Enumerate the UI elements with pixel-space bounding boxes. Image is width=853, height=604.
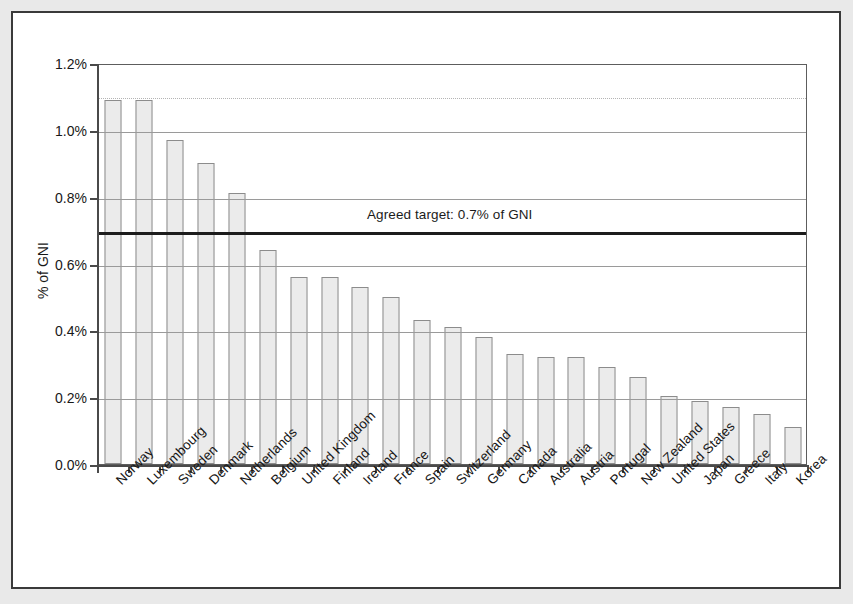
bar-slot	[592, 65, 623, 464]
y-axis-tick-label: 1.2%	[43, 56, 87, 72]
bar-slot	[746, 65, 777, 464]
y-axis-tick-label: 0.0%	[43, 457, 87, 473]
y-axis-tick-label: 0.8%	[43, 190, 87, 206]
bars-layer	[98, 65, 806, 464]
bar-slot	[530, 65, 561, 464]
bar-slot	[191, 65, 222, 464]
bar-slot	[252, 65, 283, 464]
bar-belgium	[259, 250, 276, 464]
y-axis-line	[97, 64, 99, 465]
bar-slot	[376, 65, 407, 464]
bar-luxembourg	[136, 100, 153, 464]
y-axis-tick-label: 0.6%	[43, 257, 87, 273]
y-axis-tick-label: 0.2%	[43, 390, 87, 406]
plot-area	[97, 64, 807, 465]
bar-norway	[105, 100, 122, 464]
gridline	[98, 266, 806, 267]
bar-slot	[685, 65, 716, 464]
bar-slot	[283, 65, 314, 464]
agreed-target-label: Agreed target: 0.7% of GNI	[367, 207, 532, 222]
bar-slot	[129, 65, 160, 464]
bar-slot	[98, 65, 129, 464]
gridline	[98, 199, 806, 200]
bar-slot	[160, 65, 191, 464]
y-axis-tick	[90, 198, 97, 200]
gridline	[98, 132, 806, 133]
bar-slot	[499, 65, 530, 464]
x-axis-tick	[97, 465, 99, 473]
y-axis-tick	[90, 64, 97, 66]
bar-korea	[784, 427, 801, 464]
bar-slot	[561, 65, 592, 464]
bar-slot	[438, 65, 469, 464]
y-axis-tick	[90, 331, 97, 333]
y-axis-tick	[90, 131, 97, 133]
y-axis-tick-label: 1.0%	[43, 123, 87, 139]
bar-slot	[654, 65, 685, 464]
agreed-target-line	[98, 232, 806, 235]
y-axis-tick	[90, 398, 97, 400]
bar-slot	[623, 65, 654, 464]
bar-france	[383, 297, 400, 464]
bar-spain	[414, 320, 431, 464]
gridline	[98, 332, 806, 333]
y-axis-tick	[90, 265, 97, 267]
bar-denmark	[198, 163, 215, 464]
bar-chart: % of GNI Agreed target: 0.7% of GNI 0.0%…	[13, 13, 843, 591]
bar-slot	[314, 65, 345, 464]
page-background: % of GNI Agreed target: 0.7% of GNI 0.0%…	[0, 0, 853, 604]
y-axis-tick	[90, 465, 97, 467]
bar-slot	[777, 65, 808, 464]
figure-frame: % of GNI Agreed target: 0.7% of GNI 0.0%…	[11, 11, 841, 589]
gridline-faint	[98, 98, 806, 99]
gridline	[98, 399, 806, 400]
bar-slot	[221, 65, 252, 464]
bar-sweden	[167, 140, 184, 464]
y-axis-tick-label: 0.4%	[43, 323, 87, 339]
bar-slot	[468, 65, 499, 464]
bar-slot	[407, 65, 438, 464]
bar-slot	[345, 65, 376, 464]
bar-finland	[321, 277, 338, 464]
bar-switzerland	[444, 327, 461, 464]
bar-slot	[715, 65, 746, 464]
